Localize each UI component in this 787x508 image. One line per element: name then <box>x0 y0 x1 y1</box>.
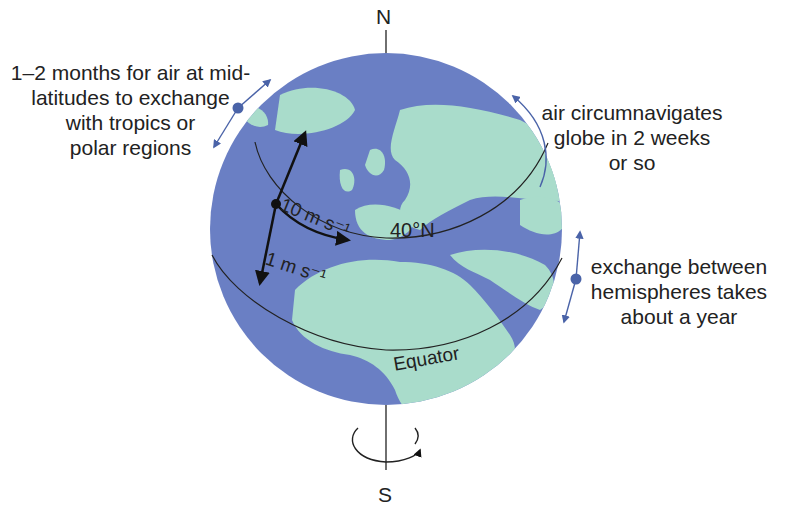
lat-40n-label: 40°N <box>390 218 435 243</box>
midlat-line-4: polar regions <box>8 135 253 160</box>
south-label: S <box>378 482 392 507</box>
circ-line-1: air circumnavigates <box>532 100 732 125</box>
circ-line-2: globe in 2 weeks <box>532 125 732 150</box>
north-label: N <box>376 4 391 29</box>
midlat-line-1: 1–2 months for air at mid- <box>8 60 253 85</box>
hemi-line-3: about a year <box>584 304 774 329</box>
midlat-line-2: latitudes to exchange <box>8 85 253 110</box>
circ-line-3: or so <box>532 150 732 175</box>
midlat-line-3: with tropics or <box>8 110 253 135</box>
hemisphere-annotation: exchange between hemispheres takes about… <box>584 254 774 329</box>
midlat-annotation: 1–2 months for air at mid- latitudes to … <box>8 60 253 160</box>
hemi-line-1: exchange between <box>584 254 774 279</box>
hemisphere-exchange-arrow <box>564 232 582 322</box>
rotation-arc-back <box>415 428 418 444</box>
circumnavigation-annotation: air circumnavigates globe in 2 weeks or … <box>532 100 732 175</box>
hemi-line-2: hemispheres takes <box>584 279 774 304</box>
